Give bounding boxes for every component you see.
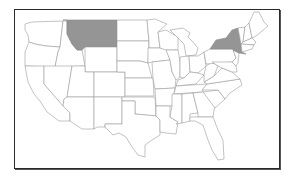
us-map — [0, 0, 306, 179]
state-connecticut[interactable] — [241, 44, 254, 52]
state-florida[interactable] — [190, 117, 224, 160]
state-maine[interactable] — [249, 12, 268, 38]
state-kansas[interactable] — [125, 78, 154, 96]
state-colorado[interactable] — [94, 72, 125, 97]
state-wyoming[interactable] — [85, 47, 117, 72]
state-south-dakota[interactable] — [117, 41, 149, 63]
state-north-dakota[interactable] — [117, 20, 149, 41]
